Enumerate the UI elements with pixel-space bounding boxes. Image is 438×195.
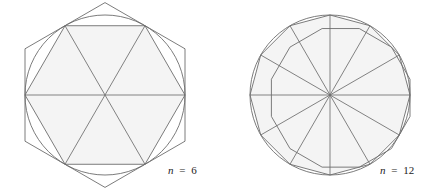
panel-label-n12: n = 12 bbox=[380, 164, 414, 176]
panel-label-n12-equals: = bbox=[391, 164, 397, 176]
polygon-panel-n6: n = 6 bbox=[0, 0, 219, 195]
panel-label-n12-value: 12 bbox=[403, 164, 414, 176]
polygon-panel-n12: n = 12 bbox=[219, 0, 438, 195]
radii-n12 bbox=[250, 15, 410, 175]
panel-label-n6-variable: n bbox=[168, 164, 174, 176]
panel-label-n6-value: 6 bbox=[191, 164, 197, 176]
panel-label-n6: n = 6 bbox=[168, 164, 197, 176]
panel-label-n12-variable: n bbox=[380, 164, 386, 176]
figure-board: n = 6 n = 12 bbox=[0, 0, 438, 195]
panel-label-n6-equals: = bbox=[179, 164, 185, 176]
